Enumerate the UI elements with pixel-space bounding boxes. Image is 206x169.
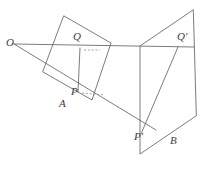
label-point-p-prime: P′ xyxy=(134,131,143,142)
projection-figure: O Q P A Q′ P′ B xyxy=(0,0,206,169)
label-point-o: O xyxy=(6,37,14,48)
label-point-q-prime: Q′ xyxy=(177,31,187,42)
ray-o-p-pprime xyxy=(14,44,156,130)
label-point-q: Q xyxy=(73,31,81,42)
ray-o-q-qprime xyxy=(14,44,194,47)
label-plane-b: B xyxy=(170,135,177,146)
label-plane-a: A xyxy=(59,98,66,109)
segment-pprime-qprime xyxy=(141,47,178,134)
dashed-guide-from-p xyxy=(82,93,104,95)
plane-b-outline xyxy=(140,10,196,154)
segment-p-q xyxy=(78,48,80,92)
label-point-p: P xyxy=(71,86,78,97)
